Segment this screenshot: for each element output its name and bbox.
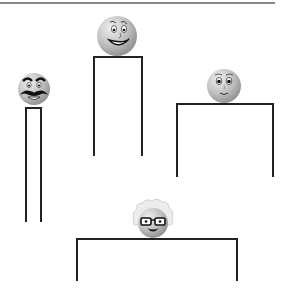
- box-mustache: [25, 107, 42, 222]
- box-small-smile: [176, 103, 274, 177]
- box-big-smile: [93, 56, 143, 156]
- face-small-smile-icon: [207, 69, 241, 103]
- face-mustache-icon: [18, 73, 50, 105]
- box-glasses: [76, 238, 238, 281]
- face-glasses-icon: [131, 199, 175, 241]
- top-rule: [0, 2, 275, 4]
- face-big-smile-icon: [97, 16, 137, 56]
- diagram-canvas: [0, 0, 284, 295]
